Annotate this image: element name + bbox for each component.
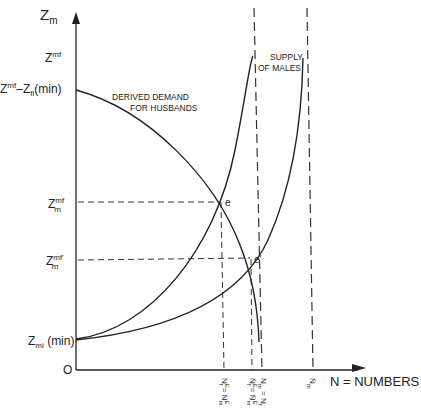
y-label-zmf: Zmf: [45, 50, 62, 65]
origin-label: O: [63, 363, 72, 377]
y-label-zmi-min: Zmi (min): [28, 334, 74, 350]
guide-e-prime-horizontal: [78, 258, 250, 260]
guide-e-vertical: [221, 202, 224, 370]
y-axis-arrow-icon: [72, 12, 80, 24]
supply-label-line2: OF MALES: [258, 63, 301, 73]
guide-e-prime-vertical: [251, 259, 252, 370]
svg-text:NEf = NEm: NEf = NEm: [218, 378, 230, 405]
x-axis-arrow-icon: [352, 364, 366, 372]
supply-of-males-curve: [76, 58, 303, 340]
x-label-nfe-nme: NEf = NEm: [218, 378, 230, 405]
y-label-zm-mf: Zmfm: [48, 196, 65, 214]
x-label-nm-bar: N̄m: [306, 378, 317, 389]
supply-label-line1: SUPPLY: [270, 52, 303, 62]
asymptote-line-nm-bar: [307, 8, 313, 370]
demand-label-line2: FOR HUSBANDS: [130, 103, 198, 113]
y-label-zmf-minus-zfi: Zmf–Zfi(min): [0, 81, 62, 98]
svg-text:N̄m: N̄m: [306, 378, 317, 389]
svg-text:N̄Ef = N̄Em: N̄Ef = N̄Em: [246, 378, 258, 405]
diagram-canvas: Zm Zmf Zmf–Zfi(min) Zmfm Zmf'm Zmi (min)…: [0, 0, 421, 413]
equilibrium-e-label: e: [225, 197, 231, 208]
y-axis-title: Zm: [40, 6, 58, 26]
x-label-nfe-bar-nme-bar: N̄Ef = N̄Em: [246, 378, 258, 405]
demand-label-line1: DERIVED DEMAND: [112, 92, 189, 102]
equilibrium-e-prime-label: e': [254, 254, 262, 265]
y-label-zm-mf-prime: Zmf'm: [46, 253, 64, 271]
demand-curve: [76, 90, 259, 342]
x-axis-title: N = NUMBERS: [330, 374, 420, 389]
